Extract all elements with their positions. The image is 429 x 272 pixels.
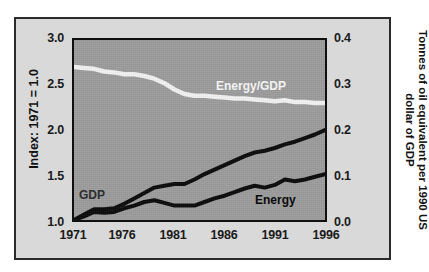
right-axis-title: Tonnes of oil equivalent per 1990 US dol…	[403, 30, 429, 230]
right-tick-0.1: 0.1	[334, 169, 374, 183]
bottom-tick-1991: 1991	[250, 228, 300, 242]
bottom-tick-1981: 1981	[148, 228, 198, 242]
right-tick-0.0: 0.0	[334, 215, 374, 229]
bottom-tick-1986: 1986	[199, 228, 249, 242]
left-tick-2.0: 2.0	[24, 123, 64, 137]
bottom-tick-1971: 1971	[48, 228, 98, 242]
right-tick-0.3: 0.3	[334, 77, 374, 91]
right-tick-0.2: 0.2	[334, 123, 374, 137]
left-tick-1.5: 1.5	[24, 169, 64, 183]
series-label-energy: Energy	[255, 193, 296, 207]
left-tick-1.0: 1.0	[24, 215, 64, 229]
bottom-tick-1996: 1996	[301, 228, 351, 242]
left-tick-3.0: 3.0	[24, 31, 64, 45]
bottom-tick-1976: 1976	[97, 228, 147, 242]
left-tick-2.5: 2.5	[24, 77, 64, 91]
series-label-gdp: GDP	[79, 188, 105, 202]
series-label-energy-gdp: Energy/GDP	[216, 79, 286, 93]
right-tick-0.4: 0.4	[334, 31, 374, 45]
series-line-energy-gdp	[74, 67, 325, 103]
